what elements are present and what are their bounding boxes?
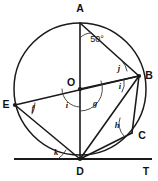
point-label-C: C xyxy=(138,129,146,141)
point-dot-E xyxy=(13,103,17,107)
angle-C-h-arc xyxy=(119,118,124,136)
chord-E-D xyxy=(15,105,80,159)
angle-A-50-label: 50° xyxy=(90,34,104,44)
angle-C-h-label: h xyxy=(115,120,120,130)
point-label-D: D xyxy=(76,165,84,177)
angle-O-i-label: i xyxy=(66,100,69,110)
point-label-B: B xyxy=(145,69,153,81)
vertex-label-group: ABCDEOT xyxy=(2,2,153,177)
point-label-O: O xyxy=(67,76,75,88)
angle-B-i-arc xyxy=(122,80,124,92)
angle-B-i-label: i xyxy=(119,81,122,91)
point-label-E: E xyxy=(2,98,9,110)
chord-segments-group xyxy=(15,23,139,159)
point-label-T: T xyxy=(143,165,150,177)
circle-geometry-diagram: ABCDEOT 50°jiigfhk xyxy=(0,0,158,181)
chord-O-B xyxy=(80,76,139,89)
point-dot-D xyxy=(78,157,82,161)
chord-C-D xyxy=(80,133,132,159)
geometry-canvas: ABCDEOT 50°jiigfhk xyxy=(0,0,158,181)
chord-A-B xyxy=(80,23,139,76)
point-dot-O xyxy=(78,87,82,91)
angle-O-g-label: g xyxy=(92,98,98,108)
point-dot-B xyxy=(137,74,141,78)
angle-B-j-label: j xyxy=(116,63,121,73)
angle-label-group: 50°jiigfhk xyxy=(32,34,122,157)
point-label-A: A xyxy=(76,2,84,14)
vertex-dot-group xyxy=(13,74,141,161)
